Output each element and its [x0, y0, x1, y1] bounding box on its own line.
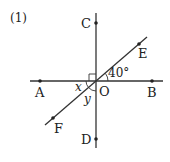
label-d: D — [81, 132, 91, 147]
point-b — [150, 79, 154, 83]
point-f — [51, 116, 55, 120]
point-a — [38, 79, 42, 83]
label-b: B — [147, 85, 157, 100]
label-f: F — [54, 121, 63, 136]
label-a: A — [34, 85, 45, 100]
point-d — [94, 137, 98, 141]
diagram-canvas: (1) C D A B E F O 40° x y — [0, 0, 170, 162]
label-o: O — [99, 84, 110, 99]
angle-arc-x — [86, 81, 89, 88]
label-angle-x: x — [75, 80, 82, 94]
right-angle-mark — [89, 74, 96, 81]
label-angle-y: y — [83, 92, 91, 106]
label-angle-40: 40° — [108, 66, 129, 80]
label-c: C — [81, 16, 91, 31]
point-c — [94, 21, 98, 25]
label-e: E — [138, 46, 148, 61]
problem-label: (1) — [10, 11, 27, 25]
geometry-figure: (1) C D A B E F O 40° x y — [0, 0, 170, 162]
angle-arc-y — [89, 88, 97, 92]
